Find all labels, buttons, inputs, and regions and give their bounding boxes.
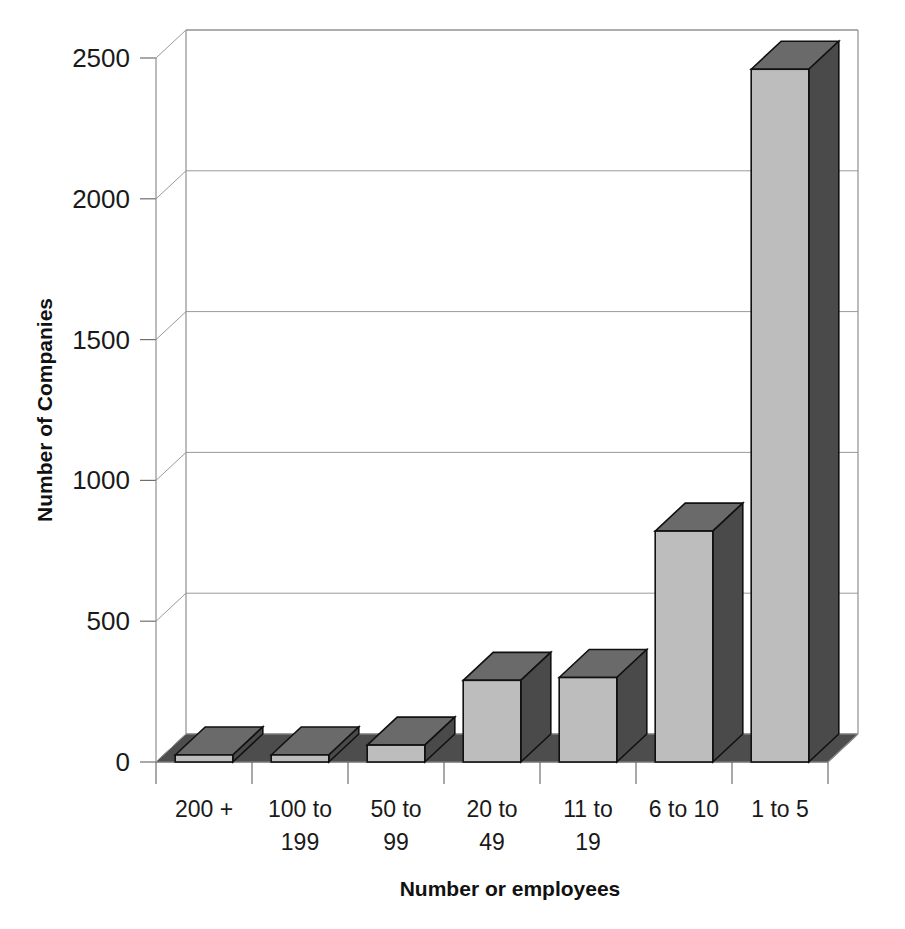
bar-front-face xyxy=(655,531,713,762)
x-category-label: 11 to xyxy=(563,796,612,822)
bars-layer xyxy=(175,41,839,762)
x-category-label: 99 xyxy=(383,829,409,855)
x-category-label: 49 xyxy=(479,829,505,855)
bar-front-face xyxy=(271,755,329,762)
bar-5 xyxy=(655,503,743,762)
bar-front-face xyxy=(751,69,809,762)
bar-chart-figure: 2500 2000 1500 1000 500 0 200 + 100 to 1… xyxy=(0,0,905,929)
x-category-label: 100 to xyxy=(268,796,332,822)
x-category-label: 1 to 5 xyxy=(751,796,809,822)
x-axis-category-labels: 200 + 100 to 199 50 to 99 20 to 49 11 to… xyxy=(175,796,809,855)
y-axis-title: Number of Companies xyxy=(33,298,56,522)
gridline-depth-connector xyxy=(156,593,186,621)
gridline-depth-connector xyxy=(156,452,186,480)
y-tick-label: 2500 xyxy=(72,43,130,73)
y-tick-label: 500 xyxy=(87,606,130,636)
gridline-depth-connector xyxy=(156,312,186,340)
bar-front-face xyxy=(367,745,425,762)
bar-3 xyxy=(463,652,551,762)
y-tick-label: 0 xyxy=(116,747,130,777)
bar-side-face xyxy=(713,503,743,762)
x-category-label: 199 xyxy=(281,829,319,855)
x-category-label: 200 + xyxy=(175,796,233,822)
y-tick-label: 1000 xyxy=(72,465,130,495)
x-category-label: 20 to xyxy=(466,796,517,822)
bar-front-face xyxy=(463,680,521,762)
bar-4 xyxy=(559,650,647,762)
gridline-depth-connector xyxy=(156,30,186,58)
x-category-label: 50 to xyxy=(370,796,421,822)
bar-side-face xyxy=(809,41,839,762)
bar-6 xyxy=(751,41,839,762)
y-axis-tick-labels: 2500 2000 1500 1000 500 0 xyxy=(72,43,130,777)
x-category-label: 19 xyxy=(575,829,601,855)
y-tick-label: 1500 xyxy=(72,325,130,355)
chart-canvas: 2500 2000 1500 1000 500 0 200 + 100 to 1… xyxy=(0,0,905,929)
x-axis-title: Number or employees xyxy=(400,877,621,900)
y-tick-label: 2000 xyxy=(72,184,130,214)
bar-front-face xyxy=(559,678,617,762)
x-category-label: 6 to 10 xyxy=(649,796,719,822)
bar-front-face xyxy=(175,755,233,762)
gridline-depth-connector xyxy=(156,171,186,199)
